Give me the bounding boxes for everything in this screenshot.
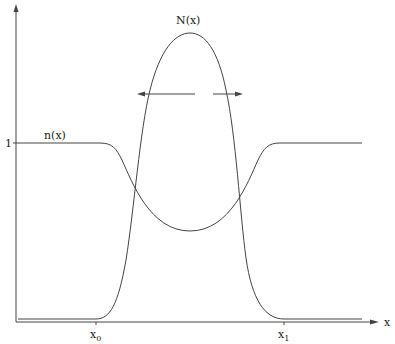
diagram: N(x) n(x) 1 x x0 x1 bbox=[0, 0, 395, 344]
x-axis-label: x bbox=[384, 316, 391, 329]
y-tick-label-1: 1 bbox=[5, 137, 12, 150]
x-tick-label-x1: x1 bbox=[278, 328, 289, 343]
curve-N bbox=[18, 33, 362, 319]
label-n: n(x) bbox=[44, 129, 66, 142]
label-N: N(x) bbox=[176, 14, 200, 27]
x-axis-arrow-icon bbox=[370, 320, 379, 325]
left-arrow-icon bbox=[137, 92, 145, 97]
right-arrow-icon bbox=[235, 92, 243, 97]
y-axis-arrow-icon bbox=[14, 4, 19, 12]
x-tick-label-x0: x0 bbox=[90, 328, 101, 343]
curve-n bbox=[16, 143, 362, 231]
